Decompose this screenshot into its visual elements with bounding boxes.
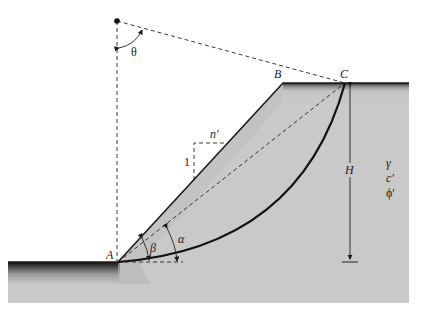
point-a-label: A xyxy=(105,248,114,262)
slope-rise-label: 1 xyxy=(184,155,190,169)
slope-stability-diagram: θ n′ 1 A B C β α H γ c′ ϕ′ xyxy=(0,0,423,318)
slope-run-label: n′ xyxy=(210,127,219,141)
soil-shade-crest xyxy=(283,83,409,109)
theta-label: θ xyxy=(131,45,137,59)
unit-weight-label: γ xyxy=(386,156,391,170)
friction-angle-label: ϕ′ xyxy=(386,186,395,200)
radius-dashed-line xyxy=(117,21,345,83)
beta-label: β xyxy=(149,241,156,255)
point-c-label: C xyxy=(340,67,349,81)
height-label: H xyxy=(344,163,355,177)
alpha-label: α xyxy=(178,232,185,246)
point-b-label: B xyxy=(274,67,282,81)
soil-shade-toe xyxy=(8,262,120,284)
cohesion-label: c′ xyxy=(386,171,394,185)
